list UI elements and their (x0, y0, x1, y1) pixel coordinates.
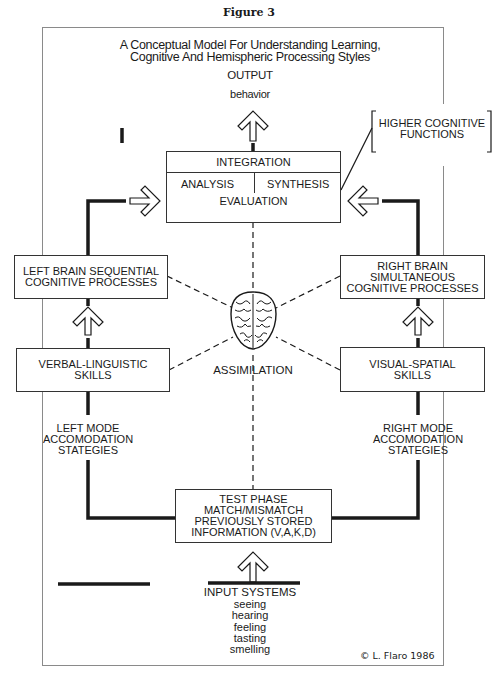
copyright: © L. Flaro 1986 (360, 650, 434, 661)
right-brain-line3: COGNITIVE PROCESSES (346, 283, 478, 294)
visual-spatial-box: VISUAL-SPATIAL SKILLS (340, 347, 485, 392)
visual-line2: SKILLS (394, 370, 431, 381)
right-brain-line1: RIGHT BRAIN (377, 261, 448, 272)
higher-cognitive-functions-label: HIGHER COGNITIVE FUNCTIONS (368, 118, 496, 140)
test-phase-line4: INFORMATION (V,A,K,D) (191, 527, 316, 538)
integration-box: INTEGRATION ANALYSIS SYNTHESIS EVALUATIO… (166, 151, 341, 223)
verbal-linguistic-box: VERBAL-LINGUISTIC SKILLS (16, 348, 170, 392)
right-mode-line3: STATEGIES (366, 445, 470, 456)
dashed-spokes (167, 222, 340, 489)
left-mode-line3: STATEGIES (38, 445, 138, 456)
left-brain-line2: COGNITIVE PROCESSES (25, 277, 157, 288)
hcf-line2: FUNCTIONS (368, 129, 496, 140)
synthesis-label: SYNTHESIS (267, 179, 329, 190)
right-mode-label: RIGHT MODE ACCOMODATION STATEGIES (366, 423, 470, 456)
analysis-label: ANALYSIS (181, 179, 234, 190)
connector-layer (0, 0, 498, 681)
brain-icon (231, 292, 276, 349)
test-phase-box: TEST PHASE MATCH/MISMATCH PREVIOUSLY STO… (175, 489, 332, 543)
left-brain-box: LEFT BRAIN SEQUENTIAL COGNITIVE PROCESSE… (14, 255, 168, 299)
input-systems-heading: INPUT SYSTEMS (190, 587, 310, 598)
integration-header: INTEGRATION (167, 152, 340, 173)
assimilation-label: ASSIMILATION (203, 365, 303, 376)
sense-hearing: hearing (200, 610, 300, 621)
visual-line1: VISUAL-SPATIAL (369, 359, 455, 370)
verbal-line2: SKILLS (74, 370, 111, 381)
evaluation-label: EVALUATION (167, 196, 340, 207)
right-brain-box: RIGHT BRAIN SIMULTANEOUS COGNITIVE PROCE… (340, 255, 485, 299)
sense-smelling: smelling (200, 644, 300, 655)
integration-divider (254, 172, 255, 193)
left-mode-label: LEFT MODE ACCOMODATION STATEGIES (38, 423, 138, 456)
right-brain-line2: SIMULTANEOUS (370, 272, 455, 283)
